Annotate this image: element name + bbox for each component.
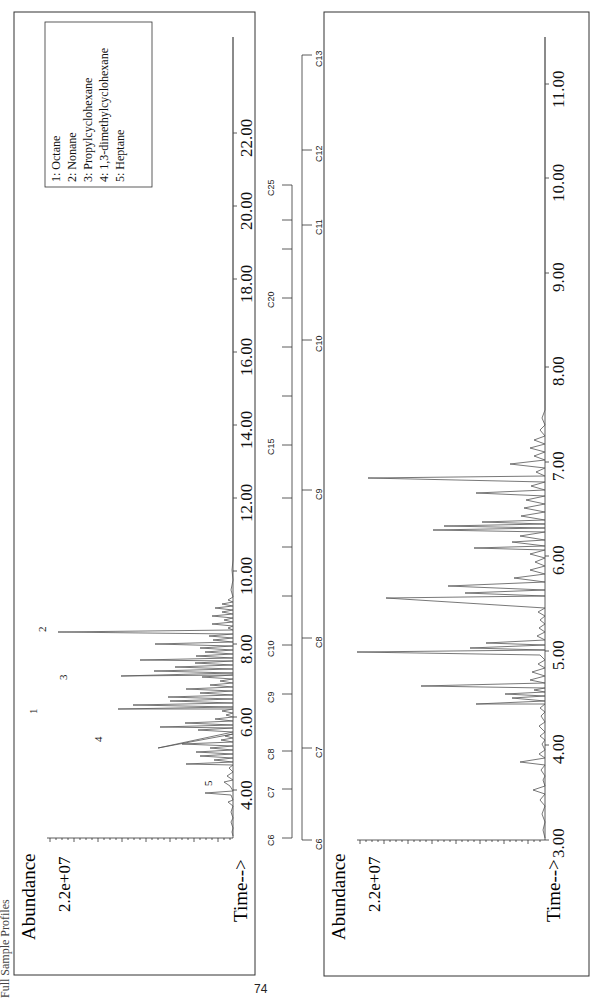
svg-text:6.00: 6.00 [549,545,568,575]
svg-text:C12: C12 [314,145,324,162]
peak-label-1: 1 [27,709,39,715]
legend-box: 1: Octane 2: Nonane 3: Propylcyclohexane… [45,22,152,187]
bottom-y-axis-title: Abundance [328,853,349,940]
bottom-x-tick-labels: 3.00 4.00 5.00 6.00 7.00 8.00 9.00 10.00… [549,70,568,858]
svg-text:22.00: 22.00 [237,119,256,157]
document-page: Full Sample Profiles 1: Octane 2: Nonane… [0,0,592,998]
svg-text:C10: C10 [266,640,276,657]
top-carbon-labels: C6 C7 C8 C9 C10 C15 C20 C25 [266,179,276,846]
top-ymax-label: 2.2e+07 [55,856,74,912]
peak-label-2: 2 [36,627,48,633]
top-abundance-axis [47,838,233,842]
svg-text:C13: C13 [314,50,324,67]
bottom-carbon-scale [302,55,312,840]
svg-text:11.00: 11.00 [549,70,568,108]
svg-text:10.00: 10.00 [549,164,568,202]
peak-label-5: 5 [202,780,214,786]
svg-text:C6: C6 [266,834,276,846]
legend-item-3: 3: Propylcyclohexane [81,78,95,182]
svg-text:3.00: 3.00 [549,828,568,858]
svg-text:4.00: 4.00 [237,780,256,810]
bottom-chromatogram-trace [357,37,545,838]
svg-text:12.00: 12.00 [237,484,256,522]
svg-text:9.00: 9.00 [549,262,568,292]
svg-text:C6: C6 [314,838,324,850]
svg-text:C7: C7 [266,786,276,798]
svg-text:16.00: 16.00 [237,338,256,376]
svg-text:C8: C8 [314,636,324,648]
svg-text:C10: C10 [314,335,324,352]
legend-item-5: 5: Heptane [113,130,127,182]
top-carbon-scale [282,185,292,838]
svg-text:C7: C7 [314,746,324,758]
svg-text:C11: C11 [314,219,324,235]
svg-text:C8: C8 [266,748,276,760]
top-x-axis-title: Time--> [230,859,251,922]
bottom-abundance-axis [357,840,545,844]
svg-text:C20: C20 [266,291,276,308]
top-y-axis-title: Abundance [18,853,39,940]
bottom-carbon-labels: C6 C7 C8 C9 C10 C11 C12 C13 [314,50,324,850]
svg-text:C15: C15 [266,438,276,455]
peak-label-4: 4 [92,736,104,742]
svg-text:C25: C25 [266,179,276,196]
legend-item-2: 2: Nonane [65,132,79,182]
top-x-tick-labels: 4.00 6.00 8.00 10.00 12.00 14.00 16.00 1… [237,119,256,810]
legend-item-1: 1: Octane [49,136,63,182]
bottom-time-axis [545,37,549,840]
svg-text:8.00: 8.00 [237,634,256,664]
peak-label-3: 3 [57,674,69,680]
chromatogram-figure: 1: Octane 2: Nonane 3: Propylcyclohexane… [0,0,592,998]
bottom-x-axis-title: Time--> [543,859,564,922]
svg-text:C9: C9 [314,488,324,500]
svg-text:7.00: 7.00 [549,451,568,481]
svg-text:10.00: 10.00 [237,557,256,595]
svg-text:14.00: 14.00 [237,411,256,449]
svg-text:5.00: 5.00 [549,640,568,670]
svg-text:18.00: 18.00 [237,265,256,303]
bottom-ymax-label: 2.2e+07 [365,856,384,912]
svg-text:8.00: 8.00 [549,356,568,386]
svg-text:20.00: 20.00 [237,192,256,230]
svg-text:4.00: 4.00 [549,734,568,764]
svg-text:C9: C9 [266,691,276,703]
page-number: 74 [254,982,268,996]
svg-text:6.00: 6.00 [237,707,256,737]
legend-item-4: 4: 1,3-dimethylcyclohexane [97,48,111,182]
